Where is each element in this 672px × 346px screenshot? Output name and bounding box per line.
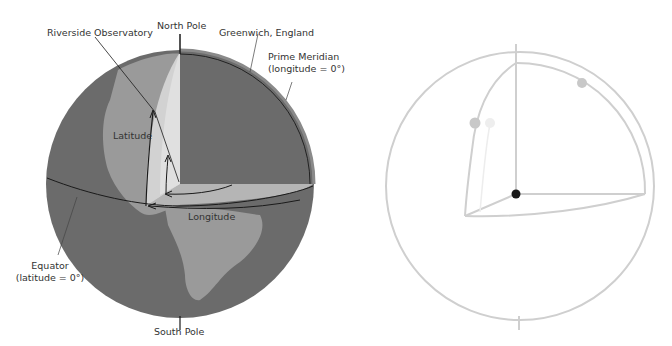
point-riverside	[470, 118, 481, 129]
globe-diagram	[46, 34, 314, 330]
label-longitude: Longitude	[188, 211, 235, 222]
label-equator-value: (latitude = 0°)	[14, 272, 86, 283]
wireframe-diagram	[386, 44, 654, 330]
meridian-arc	[465, 63, 516, 216]
label-north-pole: North Pole	[157, 20, 206, 31]
label-prime-meridian-value: (longitude = 0°)	[268, 63, 345, 74]
center-dot	[512, 190, 521, 199]
label-prime-meridian: Prime Meridian	[268, 51, 339, 62]
label-equator: Equator	[18, 260, 82, 271]
label-latitude: Latitude	[113, 130, 152, 141]
label-riverside-observatory: Riverside Observatory	[47, 27, 153, 38]
label-south-pole: South Pole	[154, 326, 204, 337]
point-greenwich	[577, 78, 587, 88]
outer-circle	[386, 52, 654, 320]
label-greenwich: Greenwich, England	[219, 27, 314, 38]
